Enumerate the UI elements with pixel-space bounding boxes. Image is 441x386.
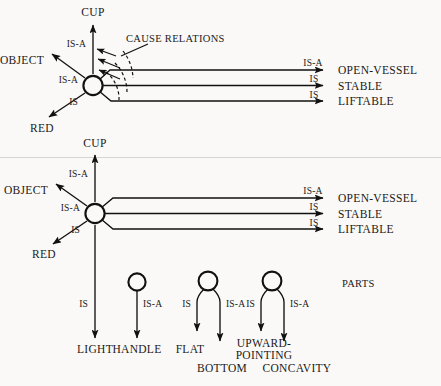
- semantic-network-diagram: CUP IS-A OBJECT IS-A RED IS IS-A OPEN-VE…: [0, 0, 441, 386]
- part-label-flat: FLAT: [176, 343, 205, 355]
- top-relation-cup: IS-A: [67, 39, 86, 49]
- part-relation-bottom: IS-A: [226, 299, 245, 309]
- bottom-label-light: LIGHT: [77, 343, 113, 355]
- bottom-relation-cup: IS-A: [69, 169, 88, 179]
- bottom-label-liftable: LIFTABLE: [338, 223, 394, 235]
- top-cause-arrow-1: [97, 49, 116, 56]
- bottom-relation-object: IS-A: [61, 203, 80, 213]
- bottom-panel: CUP IS-A OBJECT IS-A RED IS IS-A OPEN-VE…: [4, 137, 417, 374]
- bottom-label-cup: CUP: [83, 137, 106, 149]
- bottom-edge-open-vessel: [101, 198, 323, 208]
- bottom-relation-light: IS: [79, 299, 88, 309]
- bottom-label-red: RED: [32, 248, 56, 260]
- top-label-stable: STABLE: [338, 80, 382, 92]
- part-relation-handle: IS-A: [143, 299, 162, 309]
- top-relation-red: IS: [69, 97, 78, 107]
- part-relation-concavity: IS-A: [290, 299, 309, 309]
- top-cause-arrow-2: [98, 59, 120, 68]
- part-node-concavity[interactable]: [263, 272, 282, 291]
- top-label-red: RED: [30, 122, 54, 134]
- top-relation-open-vessel: IS-A: [303, 58, 322, 68]
- top-relation-liftable: IS: [310, 90, 319, 100]
- top-cause-leader: [121, 44, 148, 56]
- top-label-liftable: LIFTABLE: [338, 95, 394, 107]
- top-label-object: OBJECT: [0, 54, 44, 66]
- part-relation-flat: IS: [182, 299, 191, 309]
- bottom-edge-liftable: [101, 219, 323, 229]
- part-label-concavity: CONCAVITY: [263, 362, 332, 374]
- top-label-open-vessel: OPEN-VESSEL: [338, 64, 417, 76]
- part-label-bottom: BOTTOM: [197, 362, 247, 374]
- top-label-cup: CUP: [81, 6, 104, 18]
- part-label-handle: HANDLE: [112, 343, 161, 355]
- part-relation-upward-pointing: IS: [246, 299, 255, 309]
- bottom-edge-red: [53, 221, 87, 244]
- top-relation-object: IS-A: [59, 75, 78, 85]
- top-cause-relations-label: CAUSE RELATIONS: [126, 33, 225, 44]
- bottom-relation-open-vessel: IS-A: [303, 186, 322, 196]
- top-relation-stable: IS: [310, 74, 319, 84]
- part-group-handle: IS-A HANDLE: [112, 273, 162, 355]
- part-node-bottom[interactable]: [199, 272, 218, 291]
- part-label-upward-pointing-line2: POINTING: [236, 349, 293, 361]
- bottom-label-stable: STABLE: [338, 208, 382, 220]
- top-edge-liftable: [99, 91, 323, 101]
- top-edge-red: [49, 93, 85, 117]
- cup-node-bottom[interactable]: [85, 204, 104, 223]
- part-edge-bottom: [213, 289, 220, 341]
- top-panel: CUP IS-A OBJECT IS-A RED IS IS-A OPEN-VE…: [0, 6, 417, 134]
- part-edge-upward-pointing: [261, 289, 268, 331]
- part-edge-flat: [197, 289, 204, 331]
- bottom-relation-red: IS: [71, 225, 80, 235]
- cup-node-top[interactable]: [83, 76, 102, 95]
- part-label-upward-pointing-line1: UPWARD-: [237, 337, 292, 349]
- part-group-concavity: IS UPWARD- POINTING IS-A CONCAVITY: [236, 272, 332, 374]
- parts-annotation-label: PARTS: [342, 278, 375, 289]
- top-cause-arc-1: [123, 51, 133, 78]
- part-edge-concavity: [277, 289, 284, 341]
- bottom-relation-liftable: IS: [310, 218, 319, 228]
- figure-canvas: CUP IS-A OBJECT IS-A RED IS IS-A OPEN-VE…: [0, 0, 441, 386]
- bottom-label-object: OBJECT: [4, 184, 48, 196]
- bottom-label-open-vessel: OPEN-VESSEL: [338, 192, 417, 204]
- part-node-handle[interactable]: [128, 273, 145, 290]
- bottom-relation-stable: IS: [310, 202, 319, 212]
